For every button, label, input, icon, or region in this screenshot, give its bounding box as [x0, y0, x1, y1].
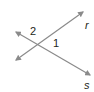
- line-r: [16, 12, 83, 60]
- diagram-canvas: 2 1 r s: [0, 0, 94, 92]
- angle-1-label: 1: [53, 37, 59, 49]
- line-s-label: s: [84, 79, 90, 91]
- angle-2-label: 2: [30, 25, 36, 37]
- line-r-label: r: [85, 19, 90, 31]
